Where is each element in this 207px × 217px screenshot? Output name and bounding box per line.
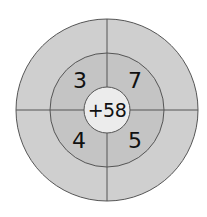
center-label: +58 bbox=[88, 99, 127, 121]
target-wheel-svg: 3 7 4 5 +58 bbox=[0, 0, 207, 217]
ring-value-bottom-right: 5 bbox=[128, 128, 142, 153]
target-wheel: 3 7 4 5 +58 bbox=[0, 0, 207, 217]
ring-value-top-right: 7 bbox=[128, 68, 142, 93]
ring-value-bottom-left: 4 bbox=[72, 128, 86, 153]
ring-value-top-left: 3 bbox=[73, 68, 87, 93]
